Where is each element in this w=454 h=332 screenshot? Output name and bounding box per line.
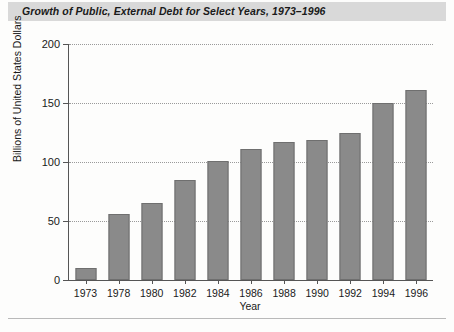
x-tick-mark bbox=[416, 280, 417, 284]
x-tick-mark bbox=[152, 280, 153, 284]
bar[interactable] bbox=[406, 90, 427, 280]
bar-slot: 1980 bbox=[135, 44, 168, 280]
bar-slot: 1996 bbox=[400, 44, 433, 280]
bar-slot: 1973 bbox=[69, 44, 102, 280]
bar-slot: 1994 bbox=[367, 44, 400, 280]
x-tick-mark bbox=[185, 280, 186, 284]
bar[interactable] bbox=[141, 203, 162, 280]
title-band: Growth of Public, External Debt for Sele… bbox=[8, 2, 446, 21]
bar[interactable] bbox=[207, 161, 228, 280]
y-tick-label: 50 bbox=[48, 215, 60, 227]
x-tick-label: 1982 bbox=[173, 287, 196, 299]
x-tick-mark bbox=[119, 280, 120, 284]
x-tick-label: 1992 bbox=[339, 287, 362, 299]
x-tick-label: 1990 bbox=[305, 287, 328, 299]
footer-divider bbox=[8, 318, 446, 319]
x-axis-title: Year bbox=[68, 300, 432, 312]
bar-slot: 1988 bbox=[268, 44, 301, 280]
bar[interactable] bbox=[373, 103, 394, 280]
bar[interactable] bbox=[340, 133, 361, 281]
chart-title: Growth of Public, External Debt for Sele… bbox=[22, 5, 326, 17]
x-tick-mark bbox=[317, 280, 318, 284]
chart-figure: Growth of Public, External Debt for Sele… bbox=[0, 0, 454, 332]
x-tick-mark bbox=[350, 280, 351, 284]
x-tick-mark bbox=[218, 280, 219, 284]
y-tick-label: 0 bbox=[54, 274, 60, 286]
y-tick-mark bbox=[63, 280, 69, 281]
x-tick-label: 1996 bbox=[405, 287, 428, 299]
x-tick-label: 1988 bbox=[272, 287, 295, 299]
bar-slot: 1978 bbox=[102, 44, 135, 280]
plot-area: 050100150200 197319781980198219841986198… bbox=[68, 44, 433, 281]
x-tick-label: 1973 bbox=[74, 287, 97, 299]
bar[interactable] bbox=[75, 268, 96, 280]
bar-slot: 1986 bbox=[234, 44, 267, 280]
x-tick-mark bbox=[284, 280, 285, 284]
bar[interactable] bbox=[307, 140, 328, 280]
y-tick-label: 150 bbox=[42, 97, 60, 109]
bar-series: 1973197819801982198419861988199019921994… bbox=[69, 44, 433, 280]
x-tick-mark bbox=[251, 280, 252, 284]
bar[interactable] bbox=[108, 214, 129, 280]
x-tick-mark bbox=[383, 280, 384, 284]
bar[interactable] bbox=[274, 142, 295, 280]
x-tick-label: 1986 bbox=[239, 287, 262, 299]
bar-slot: 1984 bbox=[201, 44, 234, 280]
y-tick-label: 100 bbox=[42, 156, 60, 168]
x-tick-label: 1984 bbox=[206, 287, 229, 299]
bar-slot: 1992 bbox=[334, 44, 367, 280]
x-tick-label: 1978 bbox=[107, 287, 130, 299]
bar-slot: 1990 bbox=[301, 44, 334, 280]
x-tick-mark bbox=[86, 280, 87, 284]
x-tick-label: 1980 bbox=[140, 287, 163, 299]
bar[interactable] bbox=[174, 180, 195, 280]
bar[interactable] bbox=[240, 149, 261, 280]
bar-slot: 1982 bbox=[168, 44, 201, 280]
y-tick-label: 200 bbox=[42, 38, 60, 50]
y-axis-title: Billions of United States Dollars bbox=[11, 16, 23, 162]
x-tick-label: 1994 bbox=[372, 287, 395, 299]
